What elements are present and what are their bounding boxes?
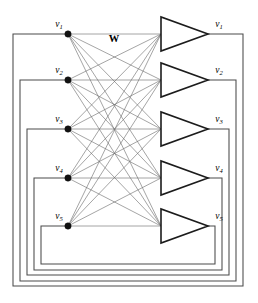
amplifier-triangle-amp1: [161, 17, 208, 51]
input-node-v1: [65, 31, 71, 37]
input-node-v4: [65, 175, 71, 181]
recurrent-network-figure: v1v2v3v4v5v1v2v3v4v5 W: [0, 0, 258, 303]
network-diagram-svg: v1v2v3v4v5v1v2v3v4v5 W: [0, 0, 258, 303]
feedback-loop-group: [13, 34, 243, 286]
weight-matrix-label: W: [109, 33, 120, 44]
amplifier-group: [161, 17, 208, 243]
feedback-path-fb1: [13, 34, 243, 286]
weight-connections-group: [68, 34, 161, 226]
amplifier-triangle-amp4: [161, 161, 208, 195]
input-node-label-v2: v2: [55, 65, 63, 76]
input-node-label-v4: v4: [55, 163, 63, 174]
amplifier-triangle-amp5: [161, 209, 208, 243]
feedback-path-fb2: [20, 80, 236, 281]
amplifier-label-amp3: v3: [215, 114, 223, 125]
amplifier-label-amp1: v1: [215, 19, 223, 30]
input-node-v5: [65, 223, 71, 229]
amplifier-label-amp2: v2: [215, 65, 223, 76]
input-node-v3: [65, 126, 71, 132]
input-node-label-v3: v3: [55, 114, 63, 125]
input-node-label-v5: v5: [55, 211, 63, 222]
amplifier-triangle-amp3: [161, 112, 208, 146]
amplifier-label-amp4: v4: [215, 163, 223, 174]
amplifier-triangle-amp2: [161, 63, 208, 97]
feedback-path-fb3: [27, 129, 229, 275]
input-node-label-v1: v1: [55, 19, 63, 30]
input-node-v2: [65, 77, 71, 83]
input-node-group: [65, 31, 71, 229]
